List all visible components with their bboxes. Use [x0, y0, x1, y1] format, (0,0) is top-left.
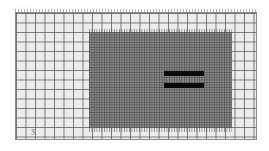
corner-mark: ʒ: [31, 128, 35, 135]
refined-region-bottom-fringe: [89, 128, 232, 132]
refined-mesh-region: [89, 32, 232, 128]
feature-bar-upper: [164, 71, 204, 76]
feature-bar-lower: [164, 83, 204, 88]
